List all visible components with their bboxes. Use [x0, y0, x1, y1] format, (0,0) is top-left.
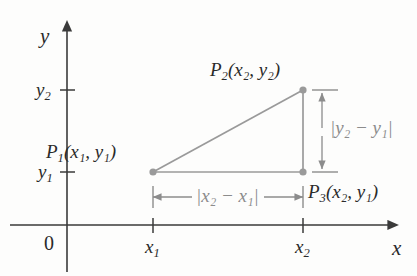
y1-tick-sub: 1: [46, 171, 52, 185]
y-axis-label: y: [40, 26, 49, 47]
origin-label: 0: [44, 233, 54, 253]
p2-point-label: P2(x₂, y₂): [210, 60, 280, 82]
p1-coords: (x₁, y₁): [64, 141, 116, 162]
y2-tick-label: y2: [36, 80, 51, 102]
figure-canvas: [0, 0, 417, 276]
p2-name: P: [210, 59, 222, 80]
p3-point-label: P3(x₂, y₁): [308, 182, 378, 204]
x1-tick-label: x1: [145, 237, 160, 259]
right-triangle: [153, 90, 303, 172]
y1-tick-label: y1: [38, 162, 53, 184]
p2-coords: (x₂, y₂): [228, 59, 280, 80]
x-axis-label: x: [392, 238, 401, 259]
p2-vertex-dot: [299, 86, 306, 93]
distance-formula-figure: y x 0 y2 y1 x1 x2 P1(x₁, y₁) P2(x₂, y₂) …: [0, 0, 417, 276]
y2-tick-sub: 2: [44, 89, 50, 103]
hypotenuse-segment: [153, 90, 303, 172]
p3-name: P: [308, 181, 320, 202]
x1-tick-sub: 1: [153, 246, 159, 260]
p3-vertex-dot: [299, 168, 306, 175]
p1-point-label: P1(x₁, y₁): [46, 142, 116, 164]
p1-name: P: [46, 141, 58, 162]
p1-vertex-dot: [149, 168, 156, 175]
p3-coords: (x₂, y₁): [326, 181, 378, 202]
x2-tick-sub: 2: [303, 246, 309, 260]
x2-tick-label: x2: [295, 237, 310, 259]
vertical-dimension-label: |y₂ − y₁|: [330, 118, 393, 137]
horizontal-dimension-label: |x₂ − x₁|: [196, 186, 259, 205]
